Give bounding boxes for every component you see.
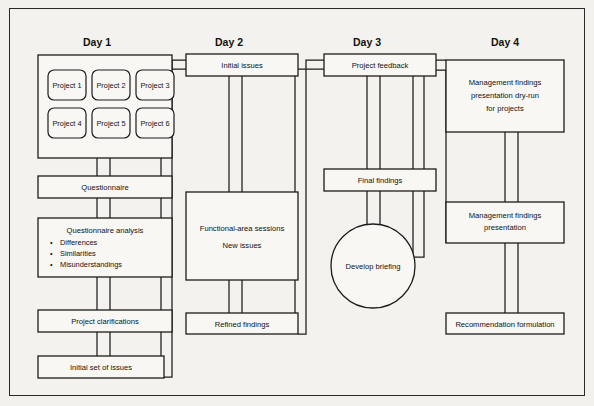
analysis-bullet-1: Differences bbox=[60, 238, 98, 247]
project-1-label: Project 1 bbox=[52, 81, 81, 90]
management-dry-run-line-3: for projects bbox=[486, 104, 524, 113]
connector-day2-to-day3-outer bbox=[298, 60, 324, 334]
project-5-label: Project 5 bbox=[96, 119, 125, 128]
day-3-heading: Day 3 bbox=[353, 36, 381, 48]
connector-day3-to-day4-outer bbox=[406, 60, 446, 257]
project-feedback-label: Project feedback bbox=[352, 61, 409, 70]
final-findings-label: Final findings bbox=[358, 176, 403, 185]
management-presentation-line-1: Management findings bbox=[469, 211, 542, 220]
project-6-label: Project 6 bbox=[140, 119, 169, 128]
diagram-page: Day 1 Day 2 Day 3 Day 4 bbox=[0, 0, 594, 406]
management-presentation-line-2: presentation bbox=[484, 223, 526, 232]
project-2-label: Project 2 bbox=[96, 81, 125, 90]
questionnaire-analysis-title: Questionnaire analysis bbox=[67, 226, 144, 235]
analysis-bullet-marker-3: • bbox=[50, 260, 53, 269]
questionnaire-label: Questionnaire bbox=[81, 183, 128, 192]
connector-day2-to-day3-inner bbox=[295, 69, 324, 323]
initial-set-of-issues-label: Initial set of issues bbox=[70, 363, 132, 372]
analysis-bullet-marker-2: • bbox=[50, 249, 53, 258]
functional-area-sessions-label: Functional-area sessions bbox=[200, 224, 285, 233]
project-clarifications-label: Project clarifications bbox=[71, 317, 139, 326]
functional-area-sessions-box[interactable] bbox=[186, 192, 298, 280]
initial-issues-label: Initial issues bbox=[221, 61, 263, 70]
management-dry-run-line-1: Management findings bbox=[469, 78, 542, 87]
day-4-heading: Day 4 bbox=[491, 36, 519, 48]
management-dry-run-line-2: presentation dry-run bbox=[471, 91, 539, 100]
analysis-bullet-3: Misunderstandings bbox=[60, 260, 122, 269]
workshop-flow-diagram: Day 1 Day 2 Day 3 Day 4 bbox=[0, 0, 594, 406]
day-2-heading: Day 2 bbox=[215, 36, 243, 48]
refined-findings-label: Refined findings bbox=[215, 320, 270, 329]
develop-briefing-label: Develop briefing bbox=[346, 262, 401, 271]
project-3-label: Project 3 bbox=[140, 81, 169, 90]
analysis-bullet-2: Similarities bbox=[60, 249, 96, 258]
day-1-heading: Day 1 bbox=[83, 36, 111, 48]
recommendation-formulation-label: Recommendation formulation bbox=[455, 320, 554, 329]
project-4-label: Project 4 bbox=[52, 119, 81, 128]
new-issues-label: New issues bbox=[223, 241, 262, 250]
analysis-bullet-marker-1: • bbox=[50, 238, 53, 247]
